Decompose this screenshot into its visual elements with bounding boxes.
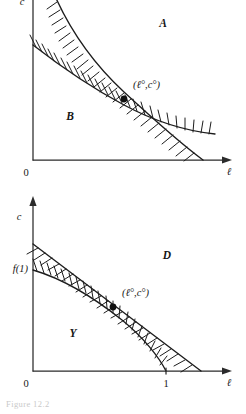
figure-caption: Figure 12.2 (6, 399, 156, 414)
x-axis-label-bottom: ℓ (227, 377, 232, 388)
origin-label-top: 0 (23, 167, 28, 178)
y-axis-label-top: c (20, 0, 25, 7)
y-axis-bottom (29, 196, 36, 371)
region-label-y: Y (69, 327, 77, 339)
optimum-point-label-bottom: (ℓ°,c°) (122, 287, 150, 299)
production-constraint (33, 259, 167, 371)
chart-panel-bottom: c ℓ 0 1 f(1) D Y (ℓ°,c°) (0, 186, 246, 396)
origin-label-bottom: 0 (23, 378, 28, 389)
x-axis-label-top: ℓ (227, 166, 232, 177)
x-tick-label-1: 1 (163, 378, 168, 389)
y-axis-label-bottom: c (17, 211, 22, 222)
optimum-point-top (121, 96, 128, 103)
region-label-d: D (162, 249, 172, 261)
y-tick-label-f1: f(1) (13, 263, 29, 275)
optimum-point-label-top: (ℓ°,c°) (133, 79, 161, 91)
figure-root: c ℓ 0 A B (ℓ°,c°) (0, 0, 246, 414)
lower-constraint-line (30, 35, 215, 134)
chart-panel-top: c ℓ 0 A B (ℓ°,c°) (0, 0, 246, 186)
upper-constraint-curve (47, 0, 203, 161)
optimum-point-bottom (110, 304, 117, 311)
x-axis-bottom (33, 367, 232, 374)
region-label-b: B (65, 110, 74, 122)
region-label-a: A (158, 17, 167, 29)
